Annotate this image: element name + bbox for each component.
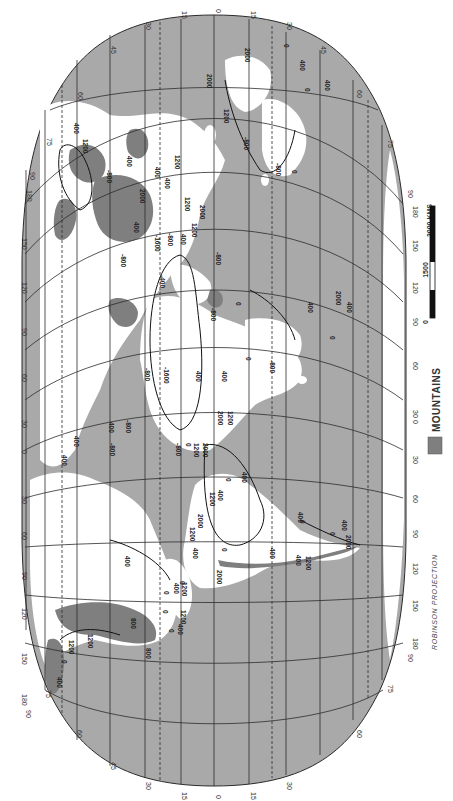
contour-label: 1200 <box>223 109 230 124</box>
lat-label: 45 <box>110 762 117 770</box>
contour-label: 2000 <box>206 74 213 89</box>
contour-label: 0 <box>235 302 242 306</box>
contour-label: 400 <box>124 556 131 567</box>
contour-label: 2000 <box>139 189 146 204</box>
contour-label: -800 <box>106 170 113 183</box>
lat-label: 30 <box>145 782 152 790</box>
contour-label: 1200 <box>193 443 200 458</box>
contour-label: 0 <box>245 357 252 361</box>
lon-label: 120 <box>412 282 419 294</box>
contour-label: 400 <box>73 123 80 134</box>
contour-label: 2000 <box>345 535 352 550</box>
contour-label: 1200 <box>174 155 181 170</box>
contour-label: 400 <box>180 234 187 245</box>
lat-label: 75 <box>45 690 52 698</box>
contour-label: 2000 <box>217 411 224 426</box>
lat-label: 0 <box>215 795 222 799</box>
contour-label: -800 <box>275 163 282 176</box>
contour-label: 400 <box>307 302 314 313</box>
contour-label: -800 <box>109 443 116 456</box>
lon-label: 90 <box>25 710 32 718</box>
map-body: 20000400400020001200-800-80001200400400-… <box>22 15 406 786</box>
contour-label: 400 <box>173 583 180 594</box>
contour-label: 1200 <box>68 640 75 655</box>
mountains-label: MOUNTAINS <box>431 368 442 432</box>
lat-label: 15 <box>181 11 188 19</box>
contour-label: 400 <box>192 548 199 559</box>
lon-label: 180 <box>21 694 28 706</box>
contour-label: 1200 <box>209 492 216 507</box>
contour-label: 0 <box>225 478 232 482</box>
lon-label: 30 <box>412 410 419 418</box>
contour-label: 0 <box>299 520 306 524</box>
contour-label: 1200 <box>191 223 198 238</box>
contour-label: 400 <box>324 80 331 91</box>
lon-label: 90 <box>21 328 28 336</box>
lon-label: 150 <box>21 653 28 665</box>
contour-label: 400 <box>217 490 224 501</box>
contour-label: 0 <box>304 88 311 92</box>
contour-label: -1600 <box>154 235 161 252</box>
lon-label: 60 <box>412 495 419 503</box>
contour-label: 0 <box>168 629 175 633</box>
lat-label: 45 <box>110 46 117 54</box>
contour-label: 400 <box>295 555 302 566</box>
lon-label: 150 <box>412 240 419 252</box>
lat-label: 60 <box>356 730 363 738</box>
contour-label: -800 <box>215 252 222 265</box>
lon-label: 60 <box>412 362 419 370</box>
contour-label: 1200 <box>305 556 312 571</box>
lon-label: 30 <box>21 420 28 428</box>
contour-label: 2000 <box>199 205 206 220</box>
lat-label: 30 <box>286 22 293 30</box>
scale-mid-label: 1500 <box>422 262 429 278</box>
contour-label: 0 <box>221 548 228 552</box>
lon-label: 90 <box>29 172 36 180</box>
lon-label: 90 <box>21 572 28 580</box>
lon-label: 90 <box>412 318 419 326</box>
lon-label: 120 <box>21 282 28 294</box>
contour-label: 0 <box>162 610 169 614</box>
scale-bar-segment <box>430 290 435 318</box>
lon-label: 30 <box>21 496 28 504</box>
contour-label: 800 <box>130 618 137 629</box>
contour-label: 0 <box>163 591 170 595</box>
lon-label: 90 <box>407 190 414 198</box>
contour-label: -800 <box>144 368 151 381</box>
contour-label: 2000 <box>202 443 209 458</box>
lat-label: 30 <box>145 22 152 30</box>
lat-label: 30 <box>286 782 293 790</box>
contour-label: 400 <box>346 302 353 313</box>
contour-label: 1200 <box>180 610 187 625</box>
contour-label: 2000 <box>216 570 223 585</box>
scale-bar: 3000 KMS 1500 0 <box>422 204 435 324</box>
contour-label: 0 <box>329 336 336 340</box>
land-island <box>297 376 307 384</box>
contour-label: 1200 <box>87 634 94 649</box>
lon-label: 120 <box>21 608 28 620</box>
lat-label: 15 <box>181 792 188 800</box>
contour-label: 400 <box>299 60 306 71</box>
contour-label: 1200 <box>82 139 89 154</box>
contour-label: 400 <box>195 371 202 382</box>
lat-label: 75 <box>387 685 394 693</box>
contour-label: 0 <box>61 660 68 664</box>
contour-label: 400 <box>108 422 115 433</box>
contour-label: -800 <box>167 233 174 246</box>
contour-label: -800 <box>269 360 276 373</box>
contour-label: 400 <box>133 222 140 233</box>
world-map-figure: 20000400400020001200-800-80001200400400-… <box>0 0 453 801</box>
contour-label: 2000 <box>244 48 251 63</box>
land-island <box>261 174 269 186</box>
lon-label: 150 <box>21 238 28 250</box>
contour-label: 800 <box>145 648 152 659</box>
lat-label: 45 <box>320 46 327 54</box>
contour-label: 400 <box>341 520 348 531</box>
lat-label: 15 <box>250 11 257 19</box>
lat-label: 60 <box>76 730 83 738</box>
contour-label: -800 <box>243 137 250 150</box>
contour-label: 400 <box>61 455 68 466</box>
lon-label: 75 <box>46 138 53 146</box>
contour-label: 1200 <box>189 527 196 542</box>
projection-label: ROBINSON PROJECTION <box>431 554 438 650</box>
